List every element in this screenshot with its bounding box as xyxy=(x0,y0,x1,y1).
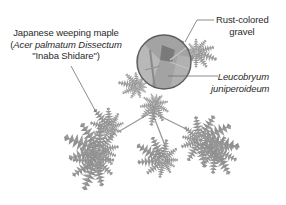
leader-gravel xyxy=(185,20,214,42)
label-leucobryum-moss: Leucobryum juniperoideum xyxy=(211,71,269,94)
label-maple-cultivar: "Inaba Shidare") xyxy=(8,50,124,62)
label-moss-line1: Leucobryum xyxy=(211,71,269,83)
gravel-moss-circle xyxy=(137,35,195,90)
planting-diagram: Japanese weeping maple (Acer palmatum Di… xyxy=(0,0,286,205)
leader-maple xyxy=(71,66,96,112)
label-gravel-line1: Rust-colored xyxy=(216,14,268,26)
label-japanese-weeping-maple: Japanese weeping maple (Acer palmatum Di… xyxy=(8,27,124,62)
label-moss-line2: juniperoideum xyxy=(211,83,269,95)
label-maple-common-name: Japanese weeping maple xyxy=(8,27,124,39)
label-gravel-line2: gravel xyxy=(216,26,268,38)
latin-name: Acer palmatum Dissectum xyxy=(13,39,122,50)
label-rust-colored-gravel: Rust-colored gravel xyxy=(216,14,268,37)
label-maple-latin-name: (Acer palmatum Dissectum xyxy=(8,39,124,51)
